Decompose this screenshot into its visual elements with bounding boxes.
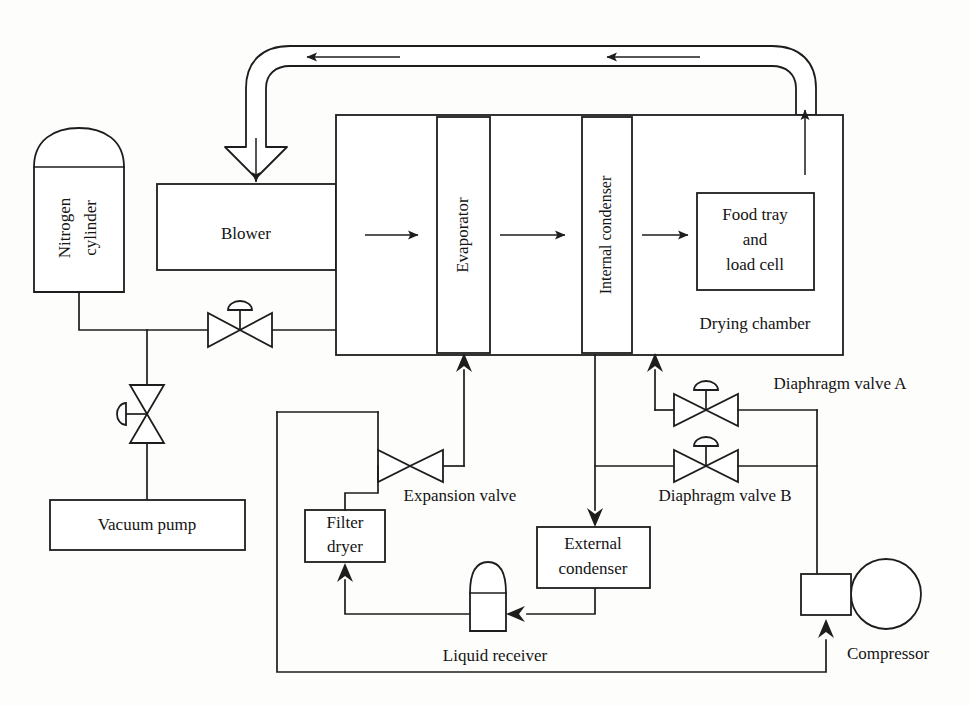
nitrogen-cylinder-label-line1: Nitrogen — [55, 197, 74, 258]
diaphragm-valve-b-label: Diaphragm valve B — [658, 486, 791, 505]
ext-cond-outlet-run — [527, 588, 595, 614]
internal-condenser: Internal condenser — [582, 117, 632, 353]
blower: Blower — [157, 184, 336, 270]
evaporator-refrigerant-feed — [443, 353, 472, 466]
food-tray-and-load-cell: Food tray and load cell — [697, 193, 814, 290]
vacuum-pump: Vacuum pump — [50, 500, 245, 550]
valve-a-right-triangle — [706, 394, 738, 426]
vacuum-valve-handle-cap — [117, 403, 126, 425]
filter-dryer: Filter dryer — [305, 466, 385, 562]
food-tray-label-line2: and — [743, 230, 768, 249]
external-condenser-label-line2: condenser — [559, 559, 628, 578]
compressor-circle — [851, 559, 921, 629]
diagram-canvas: Nitrogen cylinder Vacuum — [0, 0, 970, 706]
valve-left-triangle — [208, 313, 240, 347]
receiver-inlet-arrowhead — [506, 606, 525, 622]
compressor: Compressor — [801, 559, 929, 663]
nitrogen-cylinder-body — [34, 128, 124, 292]
expansion-valve-right-triangle — [410, 450, 443, 482]
receiver-filter-run — [345, 580, 470, 614]
valve-a-handle-cap — [694, 381, 718, 390]
diaphragm-valve-a[interactable]: Diaphragm valve A — [674, 374, 907, 426]
heat-pump-drying-schematic: Nitrogen cylinder Vacuum — [0, 0, 970, 706]
external-condenser-to-receiver — [506, 588, 595, 622]
internal-condenser-feed — [647, 353, 674, 410]
expansion-valve-label: Expansion valve — [404, 486, 517, 505]
vacuum-line-valve[interactable] — [117, 385, 164, 443]
vacuum-valve-bottom-triangle — [130, 414, 164, 443]
evaporator: Evaporator — [437, 117, 490, 353]
vacuum-pump-label: Vacuum pump — [98, 515, 197, 534]
valve-b-right-triangle — [706, 450, 738, 482]
compressor-inlet-arrowhead — [818, 619, 834, 638]
expansion-valve-left-triangle — [378, 450, 410, 482]
diaphragm-valve-b[interactable]: Diaphragm valve B — [658, 437, 791, 505]
external-condenser-label-line1: External — [564, 534, 622, 553]
receiver-to-filter-pipe — [337, 563, 470, 614]
valve-a-left-triangle — [674, 394, 706, 426]
food-tray-label-line3: load cell — [726, 255, 784, 274]
filter-dryer-label-line2: dryer — [327, 537, 363, 556]
drying-chamber-label: Drying chamber — [700, 314, 811, 333]
valve-handle-cap — [228, 301, 252, 310]
nitrogen-supply-valve[interactable] — [208, 301, 272, 347]
food-tray-label-line1: Food tray — [722, 205, 788, 224]
filter-dryer-to-expansion-pipe — [345, 466, 378, 510]
internal-condenser-label: Internal condenser — [597, 175, 614, 294]
compressor-terminal-box — [801, 574, 851, 615]
external-condenser: External condenser — [537, 527, 650, 588]
nitrogen-cylinder-label-line2: cylinder — [81, 200, 100, 256]
expansion-valve[interactable]: Expansion valve — [378, 450, 516, 505]
evaporator-label: Evaporator — [453, 197, 472, 273]
vacuum-valve-top-triangle — [130, 385, 164, 414]
nitrogen-cylinder: Nitrogen cylinder — [34, 128, 124, 292]
valve-right-triangle — [240, 313, 272, 347]
filter-dryer-label-line1: Filter — [327, 513, 364, 532]
liquid-receiver-label: Liquid receiver — [443, 646, 548, 665]
diaphragm-valve-a-label: Diaphragm valve A — [773, 374, 907, 393]
blower-label: Blower — [221, 224, 271, 243]
liquid-receiver-body — [470, 562, 506, 631]
valve-b-left-triangle — [674, 450, 706, 482]
valve-b-handle-cap — [694, 437, 718, 446]
compressor-label: Compressor — [847, 644, 930, 663]
